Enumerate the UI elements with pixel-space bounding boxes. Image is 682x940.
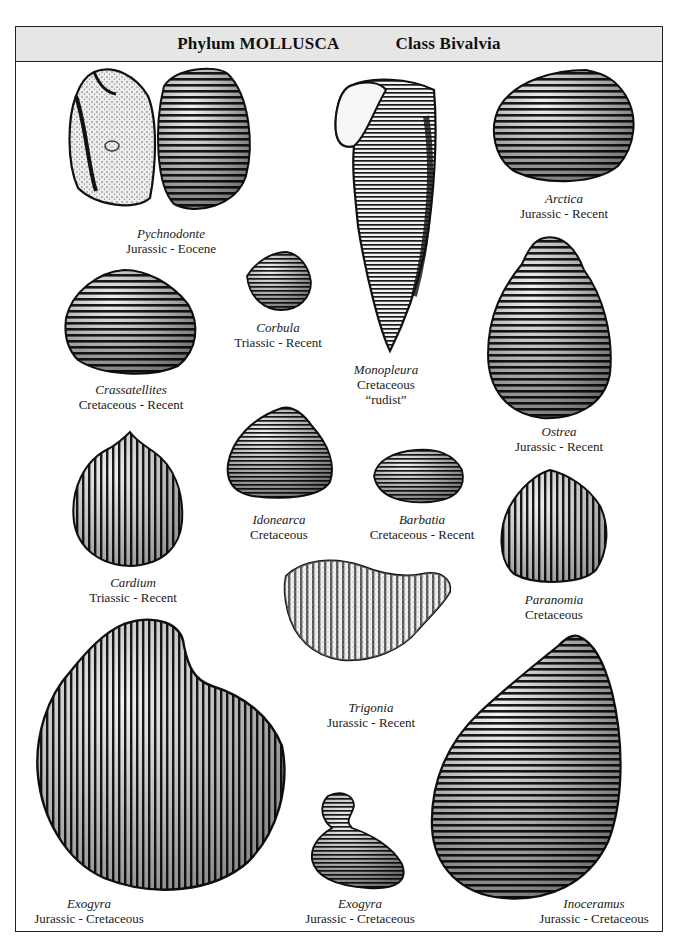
pychnodonte-illustration	[66, 66, 266, 216]
barbatia-illustration	[370, 446, 466, 504]
genus-name: Ostrea	[484, 424, 634, 439]
geologic-range: Cretaceous - Recent	[56, 397, 206, 412]
geologic-range: Jurassic - Cretaceous	[290, 911, 430, 926]
exogyra-large-caption: Exogyra Jurassic - Cretaceous	[24, 896, 154, 926]
cardium-caption: Cardium Triassic - Recent	[68, 575, 198, 605]
cardium-illustration	[70, 430, 186, 568]
genus-name: Barbatia	[352, 512, 492, 527]
rudist-note: “rudist”	[321, 392, 451, 407]
geologic-range: Triassic - Recent	[68, 590, 198, 605]
barbatia-shell-icon	[370, 446, 466, 504]
geologic-range: Jurassic - Recent	[484, 439, 634, 454]
paranomia-caption: Paranomia Cretaceous	[484, 592, 624, 622]
idonearca-illustration	[222, 404, 336, 500]
inoceramus-shell-icon	[428, 632, 628, 904]
monopleura-caption: Monopleura Cretaceous “rudist”	[321, 362, 451, 407]
arctica-shell-icon	[486, 66, 638, 186]
ostrea-shell-icon	[484, 234, 614, 420]
crassatellites-caption: Crassatellites Cretaceous - Recent	[56, 382, 206, 412]
class-title: Class Bivalvia	[395, 34, 500, 54]
crassatellites-shell-icon	[62, 268, 200, 376]
paranomia-illustration	[496, 468, 612, 586]
inoceramus-caption: Inoceramus Jurassic - Cretaceous	[526, 896, 662, 926]
genus-name: Exogyra	[24, 896, 154, 911]
geologic-range: Triassic - Recent	[213, 335, 343, 350]
genus-name: Exogyra	[290, 896, 430, 911]
genus-name: Corbula	[213, 320, 343, 335]
geologic-range: Cretaceous	[214, 527, 344, 542]
genus-name: Paranomia	[484, 592, 624, 607]
ostrea-illustration	[484, 234, 614, 420]
corbula-illustration	[243, 250, 313, 312]
exogyra-small-illustration	[308, 790, 408, 890]
genus-name: Idonearca	[214, 512, 344, 527]
exogyra-small-caption: Exogyra Jurassic - Cretaceous	[290, 896, 430, 926]
arctica-illustration	[486, 66, 638, 186]
geologic-range: Jurassic - Eocene	[96, 241, 246, 256]
genus-name: Trigonia	[296, 700, 446, 715]
trigonia-caption: Trigonia Jurassic - Recent	[296, 700, 446, 730]
geologic-range: Jurassic - Cretaceous	[526, 911, 662, 926]
arctica-caption: Arctica Jurassic - Recent	[494, 191, 634, 221]
pychnodonte-shell-icon	[66, 66, 266, 216]
genus-name: Arctica	[494, 191, 634, 206]
phylum-title: Phylum MOLLUSCA	[177, 34, 339, 54]
geologic-range: Cretaceous	[321, 377, 451, 392]
geologic-range: Jurassic - Recent	[494, 206, 634, 221]
corbula-shell-icon	[243, 250, 313, 312]
exogyra-large-shell-icon	[34, 616, 290, 896]
paranomia-shell-icon	[496, 468, 612, 586]
plate-header: Phylum MOLLUSCA Class Bivalvia	[16, 27, 662, 62]
genus-name: Inoceramus	[526, 896, 662, 911]
geologic-range: Cretaceous - Recent	[352, 527, 492, 542]
inoceramus-illustration	[428, 632, 628, 904]
crassatellites-illustration	[62, 268, 200, 376]
genus-name: Monopleura	[321, 362, 451, 377]
corbula-caption: Corbula Triassic - Recent	[213, 320, 343, 350]
pychnodonte-caption: Pychnodonte Jurassic - Eocene	[96, 226, 246, 256]
ostrea-caption: Ostrea Jurassic - Recent	[484, 424, 634, 454]
monopleura-illustration	[330, 76, 440, 356]
exogyra-small-shell-icon	[308, 790, 408, 890]
idonearca-caption: Idonearca Cretaceous	[214, 512, 344, 542]
geologic-range: Cretaceous	[484, 607, 624, 622]
monopleura-shell-icon	[330, 76, 440, 356]
genus-name: Pychnodonte	[96, 226, 246, 241]
barbatia-caption: Barbatia Cretaceous - Recent	[352, 512, 492, 542]
geologic-range: Jurassic - Cretaceous	[24, 911, 154, 926]
exogyra-large-illustration	[34, 616, 290, 896]
genus-name: Cardium	[68, 575, 198, 590]
cardium-shell-icon	[70, 430, 186, 568]
idonearca-shell-icon	[222, 404, 336, 500]
geologic-range: Jurassic - Recent	[296, 715, 446, 730]
genus-name: Crassatellites	[56, 382, 206, 397]
